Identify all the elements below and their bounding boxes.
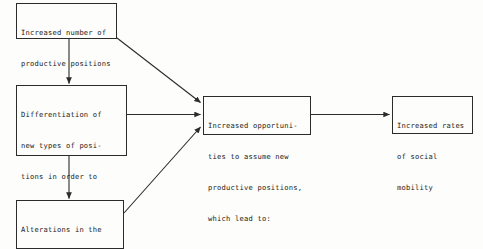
node-increased-rates-of-social-mobility: Increased rates of social mobility: [392, 96, 473, 134]
node-text-line: productive positions,: [208, 183, 310, 193]
edge-box1-to-opportunities: [117, 38, 201, 103]
node-text-line: which lead to:: [208, 214, 310, 224]
node-increased-number-of-productive-positions: Increased number of productive positions…: [16, 3, 117, 39]
node-text-line: ties to assume new: [208, 152, 310, 162]
node-text-line: new types of posi-: [21, 141, 126, 151]
node-text-line: mobility: [397, 183, 472, 193]
node-text-line: Alterations in the: [21, 225, 123, 235]
node-text-line: Increased rates: [397, 121, 472, 131]
node-alterations-in-composition-and-type: Alterations in the composition and type …: [16, 200, 124, 249]
node-text-line: Differentiation of: [21, 110, 126, 120]
edge-box3-to-opportunities: [124, 127, 201, 213]
node-text-line: of social: [397, 152, 472, 162]
node-text-line: Increased number of: [21, 28, 116, 38]
node-differentiation-of-new-types-of-positions: Differentiation of new types of posi- ti…: [16, 85, 127, 156]
node-text-line: Increased opportuni-: [208, 121, 310, 131]
node-text-line: tions in order to: [21, 172, 126, 182]
node-increased-opportunities-to-assume-new-positions: Increased opportuni- ties to assume new …: [203, 96, 311, 135]
flowchart-canvas: Increased number of productive positions…: [0, 0, 483, 249]
node-text-line: productive positions: [21, 59, 116, 69]
